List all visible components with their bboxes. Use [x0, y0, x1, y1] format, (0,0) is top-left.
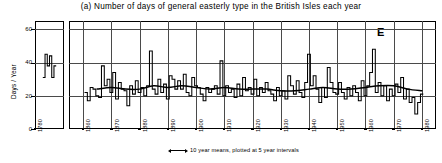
arrow-bar [171, 150, 185, 151]
plot-area [0, 0, 442, 163]
annotation-text: 10 year means, plotted at 5 year interva… [190, 147, 299, 153]
chart-figure: (a) Number of days of general easterly t… [0, 0, 442, 163]
annotation-arrow [168, 149, 188, 153]
arrow-right-tip [185, 149, 188, 153]
annual-series-path [85, 49, 424, 114]
inset-series-path [43, 54, 56, 77]
